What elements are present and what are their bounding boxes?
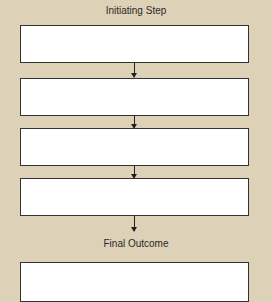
final-outcome-label: Final Outcome — [0, 238, 272, 249]
step-box-2[interactable] — [20, 78, 249, 116]
initiating-step-label: Initiating Step — [0, 5, 272, 16]
step-box-3[interactable] — [20, 128, 249, 166]
arrow-down-icon — [134, 116, 135, 128]
final-outcome-box[interactable] — [20, 262, 249, 302]
arrow-down-icon — [134, 166, 135, 178]
step-box-1[interactable] — [20, 25, 249, 63]
arrow-down-icon — [134, 216, 135, 231]
arrow-down-icon — [134, 63, 135, 77]
step-box-4[interactable] — [20, 178, 249, 216]
